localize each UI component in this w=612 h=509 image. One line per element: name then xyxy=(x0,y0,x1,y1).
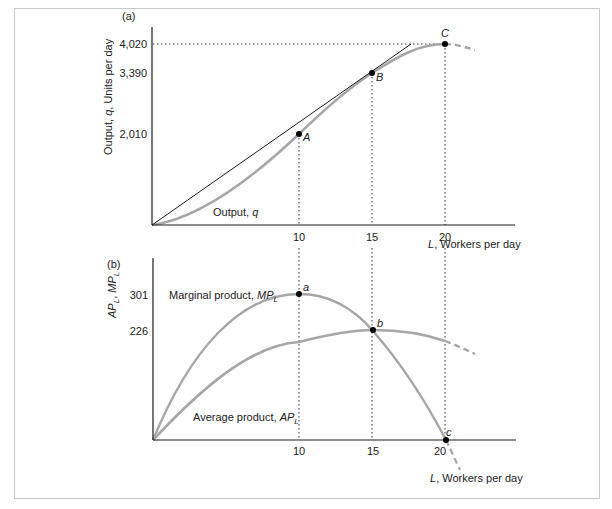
production-chart: (a) 4,020 3,390 2,010 Output, q, Units p… xyxy=(0,0,612,509)
panel-b: (b) 301 226 APL, MPL 10 15 20 L, Workers… xyxy=(106,248,523,484)
point-b xyxy=(370,327,376,333)
xtick-15-a: 15 xyxy=(366,231,378,243)
output-curve-extension xyxy=(445,44,475,50)
output-curve-label: Output, q xyxy=(213,206,259,218)
point-c-label: c xyxy=(446,426,452,438)
ytick-3390: 3,390 xyxy=(119,67,147,79)
point-C-label: C xyxy=(441,27,449,39)
panel-a: (a) 4,020 3,390 2,010 Output, q, Units p… xyxy=(102,10,521,250)
x-axis-label-b: L, Workers per day xyxy=(430,472,523,484)
ytick-226: 226 xyxy=(130,325,148,337)
point-A-label: A xyxy=(302,131,310,143)
point-a-label: a xyxy=(303,281,309,293)
ytick-301: 301 xyxy=(130,289,148,301)
point-B xyxy=(369,70,375,76)
point-A xyxy=(296,131,302,137)
panel-b-label: (b) xyxy=(107,258,120,270)
point-a xyxy=(296,291,302,297)
x-axis-label-a: L, Workers per day xyxy=(428,238,521,250)
xtick-15-b: 15 xyxy=(367,445,379,457)
ytick-4020: 4,020 xyxy=(119,38,147,50)
mp-curve-extension xyxy=(446,440,460,470)
xtick-10-a: 10 xyxy=(293,231,305,243)
point-C xyxy=(442,41,448,47)
point-b-label: b xyxy=(377,317,383,329)
panel-a-label: (a) xyxy=(122,10,135,22)
ytick-2010: 2,010 xyxy=(119,128,147,140)
xtick-20-b: 20 xyxy=(434,445,446,457)
y-axis-label-b: APL, MPL xyxy=(106,272,121,319)
ap-curve-extension xyxy=(445,341,475,354)
y-axis-label-a: Output, q, Units per day xyxy=(102,38,114,155)
ap-curve-label: Average product, APL xyxy=(193,411,299,426)
xtick-10-b: 10 xyxy=(293,445,305,457)
point-B-label: B xyxy=(376,71,383,83)
